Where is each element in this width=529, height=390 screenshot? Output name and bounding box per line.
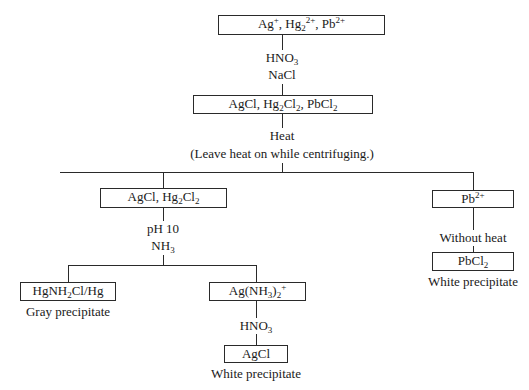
connector-to-chlorides [282, 84, 283, 95]
connector-right-branch [473, 172, 474, 190]
silver-complex-box: Ag(NH3)2+ [209, 282, 306, 301]
step-heat-note: (Leave heat on while centrifuging.) [132, 146, 432, 162]
connector-heat-down [282, 163, 283, 172]
mercury-product-box: HgNH2Cl/Hg [20, 282, 116, 301]
silver-product-description: White precipitate [196, 366, 316, 382]
branch-line-nh3 [68, 265, 257, 266]
reagent-hno3: HNO3 [242, 50, 322, 66]
start-cations-box: Ag+, Hg22+, Pb2+ [218, 15, 385, 35]
connector-nh3-down [163, 255, 164, 265]
reagent-ph10: pH 10 [123, 221, 203, 237]
connector-chlorides-down [282, 113, 283, 128]
lead-product-description: White precipitate [413, 274, 529, 290]
left-precipitate-box: AgCl, Hg2Cl2 [100, 188, 227, 208]
lead-product-box: PbCl2 [432, 252, 514, 271]
reagent-hno3-silver: HNO3 [216, 318, 296, 334]
step-heat: Heat [182, 128, 382, 144]
connector-silver-complex-down [256, 300, 257, 318]
mercury-product-description: Gray precipitate [8, 304, 128, 320]
connector-start-down [282, 34, 283, 50]
lead-step-without-heat: Without heat [423, 230, 523, 246]
connector-left-precip-down [163, 207, 164, 221]
chlorides-box: AgCl, Hg2Cl2, PbCl2 [193, 95, 373, 114]
silver-product-box: AgCl [224, 345, 288, 363]
connector-to-mercury [68, 265, 69, 282]
reagent-nacl: NaCl [242, 67, 322, 83]
connector-to-silver-product [256, 334, 257, 345]
reagent-nh3: NH3 [123, 238, 203, 254]
branch-line-heat [60, 172, 474, 173]
connector-lead-down [473, 207, 474, 230]
connector-left-branch [163, 172, 164, 188]
lead-ion-box: Pb2+ [432, 190, 514, 208]
connector-to-silver-complex [256, 265, 257, 282]
